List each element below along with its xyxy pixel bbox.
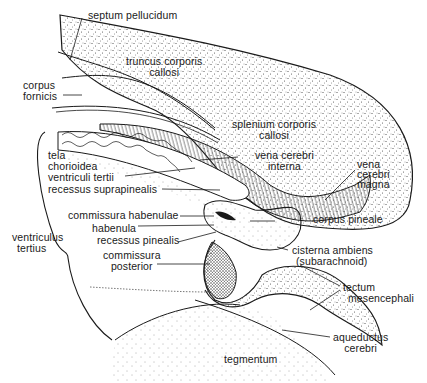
label-ventriculus-tertius: ventriculus tertius: [12, 232, 63, 254]
label-tectum-mesencephali: tectum mesencephali: [343, 282, 414, 304]
label-aqueductus-cerebri: aqueductus cerebri: [333, 332, 388, 354]
label-vena-cerebri-magna: vena cerebri magna: [357, 159, 390, 189]
anatomy-diagram: septum pellucidum truncus corporis callo…: [0, 0, 427, 383]
label-cisterna-ambiens: cisterna ambiens (subarachnoid): [292, 245, 373, 267]
label-tela-chorioidea-ventriculi-tertii: tela chorioidea ventriculi tertii: [48, 150, 114, 183]
label-corpus-fornicis: corpus fornicis: [23, 80, 57, 102]
label-habenula: habenula: [92, 223, 136, 234]
label-vena-cerebri-interna: vena cerebri interna: [255, 150, 314, 172]
label-commissura-habenulae: commissura habenulae: [68, 210, 179, 221]
label-septum-pellucidum: septum pellucidum: [88, 10, 177, 21]
label-corpus-pineale: corpus pineale: [313, 214, 383, 225]
label-recessus-suprapinealis: recessus suprapinealis: [48, 184, 157, 195]
label-splenium-corporis-callosi: splenium corporis callosi: [232, 119, 316, 141]
label-truncus-corporis-callosi: truncus corporis callosi: [126, 56, 202, 78]
label-tegmentum: tegmentum: [224, 354, 277, 365]
corpus-pineale-shape: [204, 201, 301, 250]
commissura-posterior-shape: [204, 242, 236, 299]
label-recessus-pinealis: recessus pinealis: [97, 235, 179, 246]
label-commissura-posterior: commissura posterior: [103, 250, 161, 272]
tegmentum-shape: [110, 304, 330, 383]
